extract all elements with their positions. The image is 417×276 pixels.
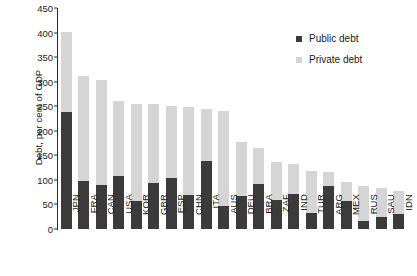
bar-segment-private-esp [166, 106, 177, 178]
legend-label-public: Public debt [309, 33, 358, 44]
debt-stacked-bar-chart: Debt, per cent of GDP 050100150200250300… [0, 0, 417, 276]
x-axis-label-idn: IDN [403, 194, 414, 234]
legend-swatch-private-icon [296, 57, 302, 63]
x-axis-label-jpn: JPN [70, 194, 81, 234]
x-axis-label-ita: ITA [210, 194, 221, 234]
y-tick-label-450: 450 [1, 3, 53, 14]
x-axis-label-fra: FRA [88, 194, 99, 234]
y-tick-label-400: 400 [1, 27, 53, 38]
legend-item-private: Private debt [296, 54, 362, 65]
bar-segment-private-gbr [148, 104, 159, 183]
bar-segment-private-chn [183, 107, 194, 195]
x-axis-label-bra: BRA [263, 194, 274, 234]
bar-segment-private-ind [288, 164, 299, 194]
x-axis-label-ind: IND [298, 194, 309, 234]
x-axis-label-esp: ESP [175, 194, 186, 234]
x-axis-label-kor: KOR [140, 194, 151, 234]
y-tick-label-50: 50 [1, 199, 53, 210]
legend-label-private: Private debt [309, 54, 362, 65]
bar-segment-private-arg [323, 172, 334, 186]
y-tick-label-300: 300 [1, 76, 53, 87]
x-axis-label-gbr: GBR [158, 194, 169, 234]
bar-segment-private-ita [201, 109, 212, 161]
bar-segment-private-usa [113, 101, 124, 176]
bar-segment-private-bra [253, 148, 264, 184]
x-axis-label-chn: CHN [193, 194, 204, 234]
x-axis-label-zaf: ZAF [280, 194, 291, 234]
legend-item-public: Public debt [296, 33, 362, 44]
chart-legend: Public debt Private debt [296, 33, 362, 75]
y-tick-label-350: 350 [1, 52, 53, 63]
x-axis-label-rus: RUS [368, 194, 379, 234]
y-tick-label-150: 150 [1, 150, 53, 161]
legend-swatch-public-icon [296, 36, 302, 42]
x-axis-label-usa: USA [123, 194, 134, 234]
x-axis-label-mex: MEX [350, 194, 361, 234]
bar-segment-private-jpn [61, 32, 72, 112]
bar-segment-private-can [96, 80, 107, 185]
y-tick-label-200: 200 [1, 125, 53, 136]
y-axis-title: Debt, per cent of GDP [33, 18, 44, 218]
bar-segment-private-fra [78, 76, 89, 181]
y-tick-label-0: 0 [1, 224, 53, 235]
bar-segment-private-kor [131, 104, 142, 200]
y-tick-label-100: 100 [1, 174, 53, 185]
x-axis-label-can: CAN [105, 194, 116, 234]
bar-segment-private-deu [236, 142, 247, 196]
y-tick-label-250: 250 [1, 101, 53, 112]
x-axis-label-deu: DEU [245, 194, 256, 234]
bar-segment-private-aus [218, 111, 229, 207]
x-axis-label-tur: TUR [315, 194, 326, 234]
x-axis-label-arg: ARG [333, 194, 344, 234]
x-axis-label-aus: AUS [228, 194, 239, 234]
x-axis-label-sau: SAU [385, 194, 396, 234]
